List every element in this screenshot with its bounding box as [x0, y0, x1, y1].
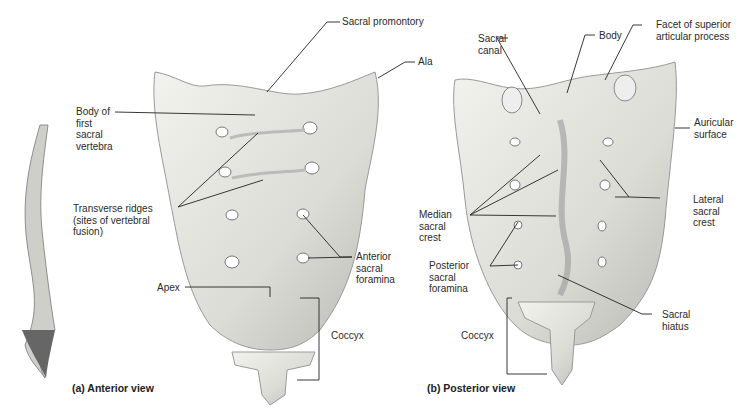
label-body: Body — [599, 30, 622, 42]
label-transverse-ridges: Transverse ridges (sites of vertebral fu… — [73, 203, 153, 238]
vertebral-column-icon — [22, 125, 55, 378]
label-posterior-sacral-foramina: Posterior sacral foramina — [429, 260, 469, 295]
caption-anterior-view: (a) Anterior view — [72, 382, 154, 394]
label-sacral-canal: Sacral canal — [478, 33, 506, 56]
label-apex: Apex — [157, 282, 180, 294]
label-anterior-sacral-foramina: Anterior sacral foramina — [356, 251, 395, 286]
caption-posterior-view: (b) Posterior view — [427, 382, 515, 394]
label-sacral-hiatus: Sacral hiatus — [662, 309, 690, 332]
anterior-sacrum — [154, 72, 378, 405]
label-ala: Ala — [418, 56, 432, 68]
label-coccyx-posterior: Coccyx — [461, 330, 494, 342]
label-facet-superior-articular-process: Facet of superior articular process — [656, 19, 731, 42]
label-auricular-surface: Auricular surface — [694, 117, 733, 140]
label-sacral-promontory: Sacral promontory — [342, 16, 424, 28]
label-lateral-sacral-crest: Lateral sacral crest — [693, 194, 724, 229]
label-median-sacral-crest: Median sacral crest — [419, 209, 452, 244]
label-coccyx-anterior: Coccyx — [331, 330, 364, 342]
label-body-first-sacral-vertebra: Body of first sacral vertebra — [76, 106, 113, 152]
